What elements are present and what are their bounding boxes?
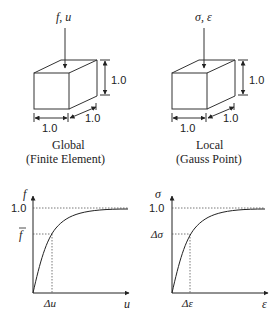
- local-response-chart: [172, 196, 268, 293]
- left-chart-ylabel: f: [23, 188, 26, 200]
- cube-front-face: [172, 73, 207, 109]
- left-chart-tick-top: 1.0: [11, 203, 26, 214]
- right-chart-ylabel: σ: [155, 188, 161, 200]
- cube-right-face: [69, 60, 97, 109]
- local-caption-subtitle: (Gauss Point): [176, 153, 242, 165]
- global-response-chart: [33, 196, 129, 293]
- response-curve: [172, 209, 265, 293]
- width-dimension: [172, 113, 206, 122]
- left-chart-tick-x: Δu: [44, 298, 56, 309]
- height-dimension: [100, 60, 110, 95]
- global-height-label: 1.0: [111, 75, 126, 86]
- local-width-label: 1.0: [180, 123, 195, 134]
- local-depth-label: 1.0: [223, 113, 238, 124]
- cube-front-face: [34, 73, 69, 109]
- right-chart-tick-x: Δε: [182, 298, 193, 309]
- width-dimension: [34, 113, 68, 122]
- global-caption-subtitle: (Finite Element): [26, 153, 105, 165]
- cube-right-face: [207, 60, 235, 109]
- left-chart-xlabel: u: [124, 298, 130, 310]
- global-load-label: f, u: [56, 11, 71, 23]
- local-height-label: 1.0: [249, 75, 264, 86]
- right-chart-xlabel: ε: [262, 298, 267, 310]
- response-curve: [33, 209, 128, 293]
- left-chart-tick-mid: f: [19, 229, 22, 241]
- local-caption-title: Local: [196, 139, 223, 151]
- global-width-label: 1.0: [42, 123, 57, 134]
- right-chart-tick-top: 1.0: [149, 203, 164, 214]
- right-chart-tick-mid: Δσ: [151, 229, 163, 240]
- height-dimension: [238, 60, 248, 95]
- local-load-label: σ, ε: [195, 11, 212, 23]
- global-depth-label: 1.0: [85, 113, 100, 124]
- global-caption-title: Global: [52, 139, 85, 151]
